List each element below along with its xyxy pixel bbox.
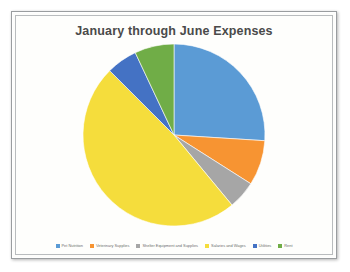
page-title: January through June Expenses bbox=[16, 24, 332, 38]
legend-swatch-icon bbox=[136, 244, 140, 248]
legend-item-label: Pet Nutrition bbox=[62, 244, 83, 248]
legend-item-label: Rent bbox=[284, 244, 292, 248]
legend-item[interactable]: Pet Nutrition bbox=[56, 244, 83, 248]
pie-slice[interactable] bbox=[174, 44, 265, 141]
legend-item-label: Salaries and Wages bbox=[211, 244, 246, 248]
legend-swatch-icon bbox=[205, 244, 209, 248]
chart-legend: Pet NutritionVeterinary SuppliesShelter … bbox=[16, 244, 332, 248]
legend-swatch-icon bbox=[56, 244, 60, 248]
legend-swatch-icon bbox=[253, 244, 257, 248]
legend-item[interactable]: Salaries and Wages bbox=[205, 244, 246, 248]
legend-item[interactable]: Utilities bbox=[253, 244, 272, 248]
legend-item-label: Veterinary Supplies bbox=[96, 244, 130, 248]
legend-item[interactable]: Rent bbox=[278, 244, 292, 248]
chart-inner-border: January through June Expenses Pet Nutrit… bbox=[15, 15, 333, 255]
pie-slices bbox=[83, 44, 265, 226]
legend-item[interactable]: Shelter Equipment and Supplies bbox=[136, 244, 198, 248]
legend-item[interactable]: Veterinary Supplies bbox=[90, 244, 130, 248]
chart-frame: January through June Expenses Pet Nutrit… bbox=[11, 11, 337, 259]
pie-chart-svg bbox=[74, 41, 274, 229]
legend-item-label: Utilities bbox=[259, 244, 272, 248]
legend-swatch-icon bbox=[90, 244, 94, 248]
legend-swatch-icon bbox=[278, 244, 282, 248]
legend-item-label: Shelter Equipment and Supplies bbox=[142, 244, 198, 248]
pie-chart-area bbox=[16, 41, 332, 231]
